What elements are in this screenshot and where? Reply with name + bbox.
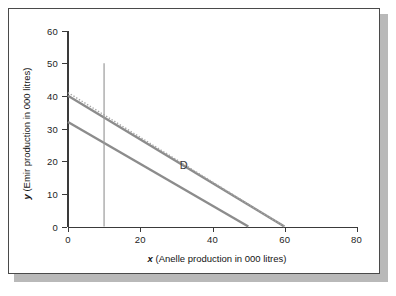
x-axis-title-text: (Anelle production in 000 litres) xyxy=(153,253,287,264)
y-axis-title-text: (Emir production in 000 litres) xyxy=(21,68,32,195)
annotation-D: D xyxy=(180,159,188,171)
chart-series-layer: D xyxy=(0,0,396,296)
x-axis-title: x (Anelle production in 000 litres) xyxy=(148,253,287,264)
y-axis-title: y (Emir production in 000 litres) xyxy=(21,39,32,229)
chart-plot-area: 0 20 40 60 80 0 10 20 30 40 50 60 D x (A… xyxy=(0,0,396,296)
figure-page: 0 20 40 60 80 0 10 20 30 40 50 60 D x (A… xyxy=(0,0,396,296)
series-constraint-line-1 xyxy=(68,96,284,227)
series-constraint-line-2 xyxy=(68,122,248,227)
y-axis-title-symbol: y xyxy=(21,194,32,199)
